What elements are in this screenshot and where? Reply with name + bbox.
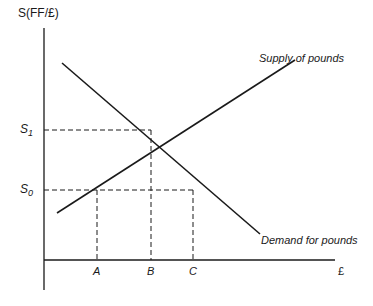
supply-curve-label: Supply of pounds xyxy=(259,52,344,64)
quantity-label-a: A xyxy=(93,265,100,277)
y-axis-label: S(FF/£) xyxy=(18,6,59,20)
demand-curve-label: Demand for pounds xyxy=(261,234,358,246)
price-label-s1: S1 xyxy=(20,122,33,136)
price-label-s1-symbol: S xyxy=(20,122,28,136)
price-label-s0: S0 xyxy=(20,182,33,196)
price-label-s0-symbol: S xyxy=(20,182,28,196)
price-label-s0-subscript: 0 xyxy=(28,188,33,198)
demand-curve xyxy=(62,63,260,234)
quantity-label-c: C xyxy=(189,265,197,277)
price-label-s1-subscript: 1 xyxy=(28,128,33,138)
diagram-canvas xyxy=(0,0,373,306)
x-axis-label: £ xyxy=(338,265,344,277)
quantity-label-b: B xyxy=(147,265,154,277)
